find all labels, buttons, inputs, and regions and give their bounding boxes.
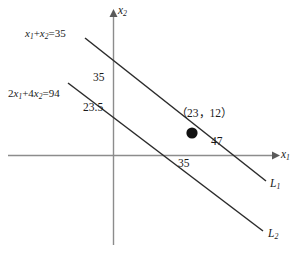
eq1-term2: x [40, 27, 45, 39]
y-axis-label: x2 [118, 5, 127, 17]
intersection-dot [186, 127, 197, 138]
x-axis-arrowhead [272, 152, 280, 160]
y-axis-arrowhead [110, 9, 118, 17]
x-tick-label-47: 47 [211, 136, 223, 148]
linear-programming-figure: x1+x2=35 2x1+4x2=94 35 23.5 35 47 （23，12… [0, 0, 292, 260]
line-label-L2: L2 [268, 228, 278, 240]
intersection-point-label: （23，12） [176, 108, 232, 120]
eq1-equals: =35 [48, 27, 65, 39]
eq2-term2-sub: 2 [39, 92, 43, 101]
eq1-term2-sub: 2 [45, 32, 49, 41]
equation-label-L1: x1+x2=35 [25, 28, 66, 39]
x-tick-label-35: 35 [178, 158, 190, 170]
eq2-term2: x [34, 87, 39, 99]
y-tick-label-23-5: 23.5 [83, 102, 103, 114]
x-axis-label: x1 [281, 149, 290, 161]
x-axis-label-sub: 1 [286, 153, 290, 162]
figure-canvas [0, 0, 292, 260]
y-axis-label-sub: 2 [123, 9, 127, 18]
line-label-L2-sub: 2 [274, 232, 278, 241]
eq2-equals: =94 [42, 87, 59, 99]
eq1-term1-sub: 1 [30, 32, 34, 41]
line-label-L1: L1 [270, 178, 280, 190]
y-tick-label-35: 35 [93, 72, 105, 84]
equation-label-L2: 2x1+4x2=94 [8, 88, 60, 99]
line-label-L1-sub: 1 [276, 182, 280, 191]
eq2-term1-sub: 1 [18, 92, 22, 101]
